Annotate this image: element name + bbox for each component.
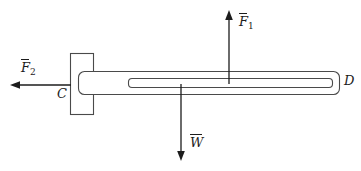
force-1-letter: F [239,14,248,29]
diagram-canvas [0,0,361,171]
force-2-arrowhead [10,81,20,89]
force-1-label: F1 [239,13,254,31]
force-1-subscript: 1 [248,21,254,31]
weight-vector-symbol: W [190,134,203,149]
point-d-label: D [344,74,354,87]
force-1-arrowhead [225,10,233,20]
weight-label: W [190,134,203,149]
vector-overbar-icon [239,13,247,14]
force-1-vector-symbol: F [239,13,248,28]
force-2-vector-symbol: F [21,59,30,74]
force-2-label: F2 [21,59,36,77]
weight-letter: W [190,135,203,150]
free-body-diagram: F1 F2 W C D [0,0,361,171]
point-c-label: C [57,87,67,100]
beam-inner-channel [129,79,333,88]
weight-arrowhead [177,151,185,161]
force-2-subscript: 2 [30,67,36,77]
force-2-letter: F [21,60,30,75]
weight-arrow [177,84,185,161]
vector-overbar-icon [21,59,29,60]
vector-overbar-icon [190,134,202,135]
